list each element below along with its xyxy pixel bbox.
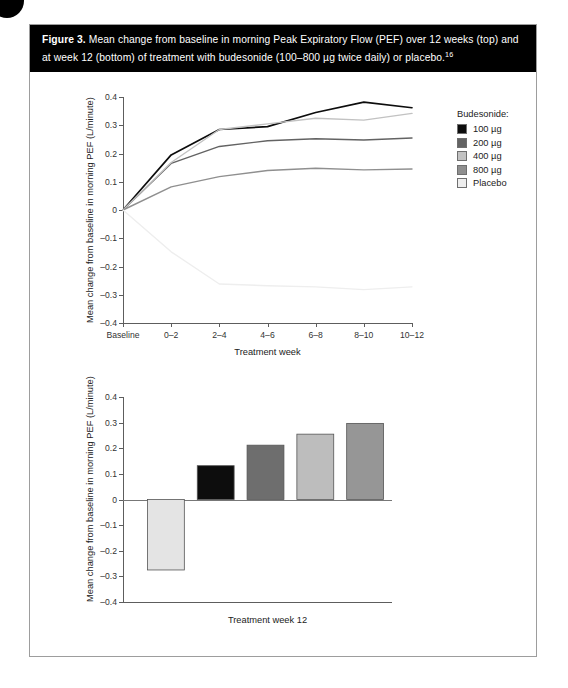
- line-series-100g: [123, 102, 412, 210]
- legend-title: Budesonide:: [457, 109, 509, 119]
- legend-swatch-800ug: [457, 165, 467, 175]
- legend-item-100ug: 100 µg: [457, 124, 509, 134]
- bottom-bar-chart: 0.40.30.20.10–0.1–0.2–0.3–0.4Treatment w…: [75, 385, 420, 650]
- figure-container: Figure 3. Mean change from baseline in m…: [29, 24, 537, 657]
- bar-800g: [347, 423, 384, 499]
- legend-label-400ug: 400 µg: [473, 151, 502, 161]
- legend-swatch-200ug: [457, 138, 467, 148]
- line-series-placebo: [123, 210, 412, 290]
- figure-caption: Figure 3. Mean change from baseline in m…: [42, 32, 524, 65]
- legend-item-400ug: 400 µg: [457, 151, 509, 161]
- legend-swatch-100ug: [457, 124, 467, 134]
- legend-label-placebo: Placebo: [473, 178, 507, 188]
- legend-label-100ug: 100 µg: [473, 124, 502, 134]
- figure-caption-prefix: Figure 3.: [42, 34, 86, 45]
- bar-200g: [247, 445, 284, 499]
- legend-label-200ug: 200 µg: [473, 138, 502, 148]
- legend-item-placebo: Placebo: [457, 178, 509, 188]
- legend-item-200ug: 200 µg: [457, 138, 509, 148]
- top-line-chart: 0.40.30.20.10–0.1–0.2–0.3–0.4Baseline0–2…: [75, 85, 420, 375]
- figure-caption-body: Mean change from baseline in morning Pea…: [42, 34, 519, 63]
- line-series-group: [75, 85, 420, 375]
- bar-series-group: [75, 385, 420, 650]
- bar-placebo: [147, 500, 184, 570]
- legend-swatch-400ug: [457, 151, 467, 161]
- figure-caption-bar: Figure 3. Mean change from baseline in m…: [30, 25, 536, 72]
- line-series-800g: [123, 168, 412, 210]
- y-axis-title: Mean change from baseline in morning PEF…: [85, 376, 95, 602]
- x-axis-title: Treatment week 12: [228, 615, 307, 625]
- legend-swatch-placebo: [457, 178, 467, 188]
- figure-caption-reference: 16: [445, 50, 453, 59]
- chart-legend: Budesonide: 100 µg 200 µg 400 µg 800 µg …: [457, 109, 509, 192]
- bar-400g: [297, 434, 334, 499]
- figure-screenshot: Figure 3. Mean change from baseline in m…: [0, 0, 568, 688]
- page-bullet-icon: [0, 0, 24, 18]
- legend-item-800ug: 800 µg: [457, 165, 509, 175]
- line-series-200g: [123, 138, 412, 210]
- bar-100g: [197, 466, 234, 500]
- legend-label-800ug: 800 µg: [473, 165, 502, 175]
